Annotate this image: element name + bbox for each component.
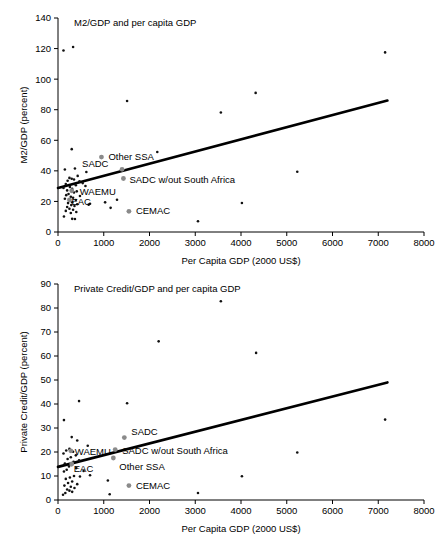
data-point	[66, 206, 69, 209]
y-tick-label: 60	[40, 350, 51, 361]
data-point	[70, 436, 73, 439]
data-point	[104, 201, 107, 204]
y-tick-label: 120	[35, 43, 51, 54]
chart-title: Private Credit/GDP and per capita GDP	[74, 283, 241, 294]
data-point	[64, 197, 67, 200]
y-tick-label: 0	[46, 226, 51, 237]
data-point	[126, 402, 129, 405]
data-point	[65, 449, 68, 452]
y-axis-title: M2/GDP (percent)	[18, 87, 29, 164]
y-axis-title: Private Credit/GDP (percent)	[18, 331, 29, 452]
y-tick-label: 20	[40, 196, 51, 207]
data-point	[296, 451, 299, 454]
data-point	[65, 194, 68, 197]
highlight-label: SADC w/out South Africa	[129, 174, 235, 185]
y-tick-label: 40	[40, 398, 51, 409]
data-point	[66, 458, 69, 461]
data-point	[72, 208, 75, 211]
data-point	[78, 459, 81, 462]
data-point	[63, 215, 66, 218]
data-point	[89, 474, 92, 477]
x-tick-label: 6000	[322, 237, 343, 248]
highlight-label: SADC w/out South Africa	[122, 445, 228, 456]
data-point	[66, 179, 69, 182]
data-point	[384, 51, 387, 54]
highlight-marker	[122, 435, 127, 440]
data-point	[64, 210, 67, 213]
y-tick-label: 70	[40, 326, 51, 337]
data-point	[73, 487, 76, 490]
y-tick-label: 10	[40, 470, 51, 481]
data-point	[197, 220, 200, 223]
x-tick-label: 1000	[93, 505, 114, 516]
data-point	[64, 478, 67, 481]
highlight-label: CEMAC	[136, 205, 170, 216]
x-tick-label: 5000	[276, 505, 297, 516]
x-tick-label: 3000	[185, 505, 206, 516]
data-point	[157, 340, 160, 343]
data-point	[109, 207, 112, 210]
y-tick-label: 30	[40, 422, 51, 433]
data-point	[70, 486, 73, 489]
data-point	[197, 492, 200, 495]
highlight-label: SADC	[82, 158, 109, 169]
data-point	[68, 207, 71, 210]
data-point	[68, 177, 71, 180]
x-axis-title: Per Capita GDP (2000 US$)	[181, 523, 300, 534]
data-point	[71, 218, 74, 221]
highlight-marker	[127, 209, 132, 214]
highlight-label: SADC	[131, 426, 158, 437]
x-tick-label: 7000	[368, 505, 389, 516]
data-point	[85, 171, 88, 174]
y-tick-label: 60	[40, 135, 51, 146]
y-tick-label: 40	[40, 165, 51, 176]
data-point	[156, 151, 159, 154]
data-point	[107, 479, 110, 482]
data-point	[73, 475, 76, 478]
y-tick-label: 0	[46, 494, 51, 505]
data-point	[220, 300, 223, 303]
data-point	[64, 168, 67, 171]
highlight-label: WAEMU	[75, 446, 111, 457]
data-point	[64, 492, 67, 495]
data-point	[65, 468, 68, 471]
data-point	[73, 178, 76, 181]
data-point	[296, 170, 299, 173]
x-tick-label: 2000	[139, 505, 160, 516]
x-tick-label: 7000	[368, 237, 389, 248]
highlight-marker	[69, 188, 74, 193]
data-point	[64, 462, 67, 465]
data-point	[78, 180, 81, 183]
x-tick-label: 0	[55, 505, 60, 516]
y-tick-label: 50	[40, 374, 51, 385]
x-tick-label: 5000	[276, 237, 297, 248]
highlight-marker	[113, 447, 118, 452]
highlight-label: Other SSA	[119, 461, 165, 472]
data-point	[74, 167, 77, 170]
x-tick-label: 6000	[322, 505, 343, 516]
y-tick-label: 20	[40, 446, 51, 457]
data-point	[72, 46, 75, 49]
data-point	[76, 483, 79, 486]
x-tick-label: 3000	[185, 237, 206, 248]
chart-title: M2/GDP and per capita GDP	[74, 17, 196, 28]
highlight-marker	[121, 176, 126, 181]
data-point	[66, 189, 69, 192]
x-tick-label: 4000	[230, 505, 251, 516]
highlight-marker	[111, 456, 116, 461]
data-point	[116, 198, 119, 201]
data-point	[70, 178, 73, 181]
x-tick-label: 8000	[413, 505, 434, 516]
data-point	[78, 400, 81, 403]
data-point	[62, 187, 65, 190]
data-point	[69, 186, 72, 189]
x-tick-label: 1000	[93, 237, 114, 248]
data-point	[76, 175, 79, 178]
data-point	[220, 111, 223, 114]
data-point	[63, 470, 66, 473]
data-point	[108, 493, 111, 496]
highlight-label: CEMAC	[136, 480, 170, 491]
data-point	[70, 456, 73, 459]
chart-private-credit-gdp-canvas: 0102030405060708090010002000300040005000…	[0, 272, 440, 545]
data-point	[63, 419, 66, 422]
